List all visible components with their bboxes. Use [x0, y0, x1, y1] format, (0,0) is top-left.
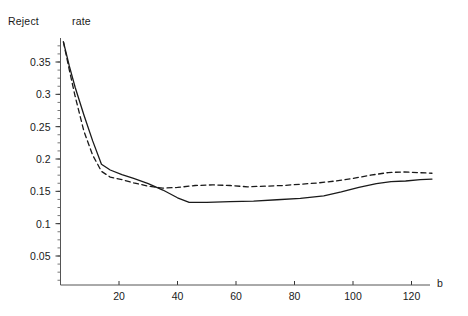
svg-text:0.2: 0.2 — [36, 153, 51, 165]
x-axis-ticks — [119, 281, 412, 285]
svg-text:0.05: 0.05 — [30, 250, 51, 262]
svg-text:20: 20 — [113, 290, 125, 302]
y-axis-tick-labels: 0.050.10.150.20.250.30.35 — [30, 56, 51, 262]
svg-text:0.3: 0.3 — [36, 88, 51, 100]
svg-text:0.35: 0.35 — [30, 56, 51, 68]
chart-axes — [61, 38, 431, 285]
chart-series — [63, 42, 432, 202]
svg-text:120: 120 — [403, 290, 421, 302]
svg-text:80: 80 — [289, 290, 301, 302]
x-axis-label: b — [437, 277, 443, 289]
chart-title-word-rate: rate — [72, 15, 91, 27]
chart-plot-area: 0.050.10.150.20.250.30.35 20406080100120 — [0, 0, 468, 316]
svg-text:60: 60 — [230, 290, 242, 302]
svg-text:0.15: 0.15 — [30, 185, 51, 197]
svg-text:0.25: 0.25 — [30, 121, 51, 133]
chart-figure: Reject rate b 0.050.10.150.20.250.30.35 … — [0, 0, 468, 316]
x-axis-tick-labels: 20406080100120 — [113, 290, 420, 302]
svg-text:100: 100 — [344, 290, 362, 302]
svg-text:0.1: 0.1 — [36, 218, 51, 230]
chart-title-word-reject: Reject — [8, 15, 39, 27]
y-axis-ticks — [56, 46, 61, 280]
svg-text:40: 40 — [172, 290, 184, 302]
